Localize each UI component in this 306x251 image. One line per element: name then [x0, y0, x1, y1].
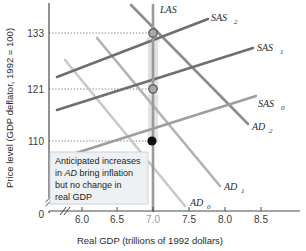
- note-line-2-a: in: [55, 168, 65, 178]
- x-tick-label-8-5: 8.5: [254, 214, 268, 225]
- curve-label-sas2: SAS 2: [211, 12, 238, 26]
- curve-label-ad2: AD 2: [251, 121, 273, 135]
- note-line-3: but no change in: [55, 180, 122, 190]
- note-line-2-b: bring inflation: [77, 168, 133, 178]
- curve-label-las: LAS: [159, 4, 177, 15]
- curve-label-sas1-sub: 1: [280, 48, 284, 56]
- curve-label-ad0-sub: 0: [207, 203, 211, 211]
- curve-label-sas2-base: SAS: [211, 12, 227, 23]
- curve-label-ad1: AD 1: [223, 181, 245, 195]
- aggregate-supply-demand-chart: 133 121 110 0 6.0 6.5 7.0 7.5 8.0 8.5 Re…: [0, 0, 306, 251]
- curve-label-ad1-sub: 1: [241, 187, 245, 195]
- equilibrium-point-121: [149, 85, 157, 93]
- note-line-1: Anticipated increases: [55, 156, 141, 166]
- note-line-2: in AD bring inflation: [55, 168, 133, 178]
- curve-label-ad0: AD 0: [189, 197, 211, 211]
- x-tick-label-7-0: 7.0: [146, 214, 160, 225]
- curve-label-sas1-base: SAS: [257, 42, 273, 53]
- note-line-2-em: AD: [64, 168, 78, 178]
- equilibrium-point-110: [147, 136, 156, 145]
- y-tick-label-110: 110: [28, 136, 44, 147]
- curve-label-sas0-base: SAS: [258, 98, 274, 109]
- y-tick-label-0: 0: [38, 209, 44, 220]
- x-tick-label-8-0: 8.0: [218, 214, 232, 225]
- curve-label-sas0-sub: 0: [281, 104, 285, 112]
- y-tick-label-121: 121: [27, 84, 44, 95]
- x-axis-title: Real GDP (trillions of 1992 dollars): [77, 235, 223, 246]
- curve-label-sas1: SAS 1: [257, 42, 284, 56]
- curve-label-ad0-base: AD: [189, 197, 204, 208]
- curve-label-ad1-base: AD: [223, 181, 238, 192]
- curve-label-ad2-sub: 2: [269, 127, 273, 135]
- curve-label-sas2-sub: 2: [234, 18, 238, 26]
- equilibrium-point-133: [149, 29, 157, 37]
- note-box: Anticipated increases in AD bring inflat…: [50, 152, 148, 204]
- chart-canvas: 133 121 110 0 6.0 6.5 7.0 7.5 8.0 8.5 Re…: [0, 0, 306, 251]
- curve-label-sas0: SAS 0: [258, 98, 285, 112]
- note-line-4: real GDP: [55, 192, 92, 202]
- x-tick-label-7-5: 7.5: [182, 214, 196, 225]
- y-tick-label-133: 133: [27, 28, 44, 39]
- curve-label-ad2-base: AD: [251, 121, 266, 132]
- y-axis-title: Price level (GDP deflator, 1992 = 100): [4, 28, 15, 188]
- x-tick-label-6-5: 6.5: [110, 214, 124, 225]
- x-tick-label-6-0: 6.0: [75, 214, 89, 225]
